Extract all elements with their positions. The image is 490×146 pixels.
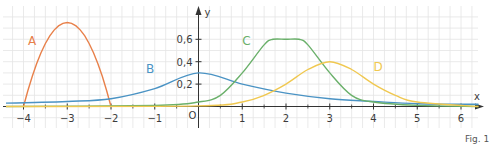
function-graph-chart: xy−4−3−2−11234560,20,40,6O ABCD Fig. 1: [0, 0, 490, 146]
y-tick-label: 0,4: [177, 57, 193, 68]
x-tick-label: −4: [16, 113, 31, 124]
figure-caption: Fig. 1: [465, 134, 489, 144]
x-axis-label: x: [474, 91, 480, 102]
x-tick-label: −2: [104, 113, 119, 124]
x-tick-label: 1: [239, 113, 245, 124]
y-axis-arrow-icon: [196, 6, 202, 15]
origin-label: O: [189, 110, 197, 121]
figure: xy−4−3−2−11234560,20,40,6O ABCD Fig. 1: [0, 0, 490, 146]
curve-label-c: C: [242, 34, 250, 48]
x-tick-label: 6: [458, 113, 464, 124]
x-tick-label: 5: [414, 113, 420, 124]
curve-label-b: B: [146, 62, 154, 76]
x-tick-label: 4: [370, 113, 376, 124]
curve-label-a: A: [28, 34, 37, 48]
y-axis-label: y: [205, 7, 211, 18]
x-tick-label: 3: [327, 113, 333, 124]
curve-label-d: D: [374, 60, 383, 74]
axes: xy−4−3−2−11234560,20,40,6O: [3, 6, 484, 128]
y-tick-label: 0,2: [177, 79, 193, 90]
x-tick-label: −3: [60, 113, 75, 124]
x-tick-label: 2: [283, 113, 289, 124]
x-tick-label: −1: [147, 113, 162, 124]
y-tick-label: 0,6: [177, 34, 193, 45]
